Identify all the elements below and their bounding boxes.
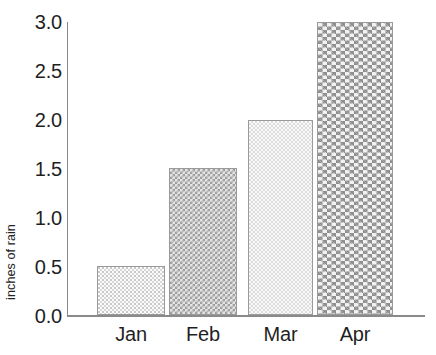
bar-mar[interactable] (248, 120, 313, 315)
bar-chart: inches of rain 3.0 2.5 2.0 1.5 1.0 0.5 0… (0, 0, 436, 355)
x-tick-label-apr: Apr (317, 322, 393, 346)
x-tick-label-mar: Mar (248, 322, 313, 346)
x-tick-label-feb: Feb (169, 322, 237, 346)
bar-jan[interactable] (97, 266, 165, 315)
plot-area (0, 0, 436, 355)
x-tick-label-jan: Jan (97, 322, 165, 346)
bar-apr[interactable] (317, 22, 393, 315)
bar-feb[interactable] (169, 168, 237, 315)
